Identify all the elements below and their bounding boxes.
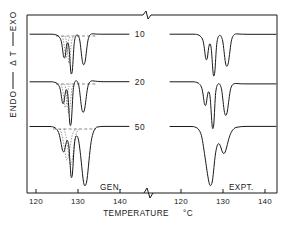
x-axis-title: TEMPERATURE [103,209,169,218]
panel-label-expt: EXPT. [229,183,254,192]
dsc-thermogram-figure: 120 130 140 120 130 140 TEMPERATURE °C E… [0,0,297,230]
curve-label-20: 20 [135,77,145,87]
curve-label-50: 50 [135,122,145,132]
xtick-right-130: 130 [216,197,230,206]
xtick-right-120: 120 [174,197,188,206]
xtick-left-140: 140 [113,197,127,206]
y-axis-label-exo: EXO [9,11,18,31]
curve-label-10: 10 [135,29,145,39]
panel-label-gen: GEN. [100,183,122,192]
chart-svg: 120 130 140 120 130 140 TEMPERATURE °C E… [0,0,297,230]
y-axis-label-group: ENDO Δ T EXO [9,11,18,118]
x-axis-units: °C [183,209,193,218]
xtick-right-140: 140 [258,197,272,206]
xtick-left-120: 120 [29,197,43,206]
y-axis-label-endo: ENDO [9,90,18,118]
xtick-left-130: 130 [71,197,85,206]
y-axis-label-delta-t: Δ T [9,50,18,65]
